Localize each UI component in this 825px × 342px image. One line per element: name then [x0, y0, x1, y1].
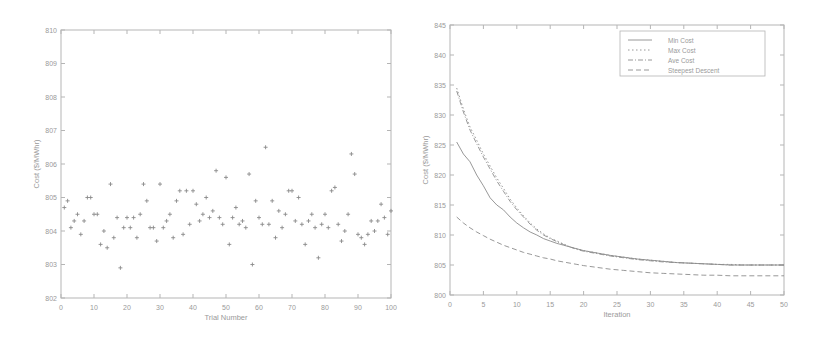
legend-entry-label: Steepest Descent — [668, 67, 720, 75]
data-point-marker — [363, 242, 367, 246]
data-point-marker — [326, 226, 330, 230]
data-point-marker — [171, 236, 175, 240]
data-point-marker — [297, 196, 301, 200]
data-point-marker — [283, 212, 287, 216]
data-point-marker — [214, 169, 218, 173]
data-point-marker — [99, 242, 103, 246]
data-point-marker — [231, 216, 235, 220]
y-tick-label: 806 — [45, 161, 57, 168]
y-tick-label: 809 — [45, 60, 57, 67]
data-point-marker — [95, 212, 99, 216]
data-point-marker — [178, 189, 182, 193]
data-point-marker — [247, 172, 251, 176]
data-point-marker — [320, 222, 324, 226]
data-point-marker — [307, 219, 311, 223]
data-point-marker — [346, 212, 350, 216]
data-point-marker — [382, 216, 386, 220]
x-tick-label: 50 — [222, 304, 230, 311]
legend-entry-label: Min Cost — [668, 37, 694, 44]
y-tick-label: 802 — [45, 295, 57, 302]
x-tick-label: 30 — [647, 301, 655, 308]
y-tick-label: 807 — [45, 127, 57, 134]
legend-entry-label: Ave Cost — [668, 57, 694, 64]
x-tick-label: 45 — [747, 301, 755, 308]
series-line-ave-cost — [457, 91, 784, 265]
x-tick-label: 90 — [354, 304, 362, 311]
data-point-marker — [349, 152, 353, 156]
x-tick-label: 25 — [613, 301, 621, 308]
y-tick-label: 840 — [434, 52, 446, 59]
y-tick-label: 830 — [434, 112, 446, 119]
data-point-marker — [184, 189, 188, 193]
legend: Min CostMax CostAve CostSteepest Descent — [620, 31, 765, 76]
data-point-marker — [333, 185, 337, 189]
data-point-marker — [366, 232, 370, 236]
series-line-max-cost — [457, 88, 784, 265]
x-tick-label: 10 — [513, 301, 521, 308]
x-tick-label: 60 — [255, 304, 263, 311]
data-point-marker — [138, 212, 142, 216]
data-point-marker — [386, 232, 390, 236]
data-point-marker — [369, 219, 373, 223]
x-tick-label: 10 — [90, 304, 98, 311]
data-point-marker — [82, 219, 86, 223]
data-point-marker — [89, 196, 93, 200]
data-point-marker — [264, 145, 268, 149]
x-axis-label: Iteration — [603, 310, 630, 319]
x-tick-label: 40 — [189, 304, 197, 311]
y-tick-label: 845 — [434, 22, 446, 29]
data-point-marker — [198, 219, 202, 223]
y-tick-label: 810 — [434, 232, 446, 239]
y-tick-label: 835 — [434, 82, 446, 89]
data-point-marker — [175, 199, 179, 203]
x-tick-label: 35 — [680, 301, 688, 308]
data-point-marker — [211, 209, 215, 213]
data-point-marker — [300, 222, 304, 226]
x-tick-label: 40 — [713, 301, 721, 308]
data-point-marker — [254, 199, 258, 203]
data-point-marker — [359, 236, 363, 240]
data-point-marker — [112, 236, 116, 240]
data-point-marker — [343, 229, 347, 233]
y-tick-label: 820 — [434, 172, 446, 179]
data-point-marker — [330, 189, 334, 193]
data-point-marker — [250, 263, 254, 267]
data-point-marker — [181, 232, 185, 236]
data-point-marker — [145, 199, 149, 203]
data-point-marker — [310, 212, 314, 216]
x-tick-label: 30 — [156, 304, 164, 311]
data-point-marker — [267, 222, 271, 226]
data-point-marker — [293, 219, 297, 223]
data-point-marker — [165, 219, 169, 223]
data-point-marker — [224, 175, 228, 179]
plot-frame — [61, 30, 391, 298]
data-point-marker — [237, 222, 241, 226]
y-tick-label: 800 — [434, 292, 446, 299]
data-point-marker — [105, 246, 109, 250]
data-point-marker — [277, 209, 281, 213]
data-point-marker — [379, 202, 383, 206]
y-tick-label: 805 — [434, 262, 446, 269]
y-tick-label: 825 — [434, 142, 446, 149]
y-tick-label: 810 — [45, 27, 57, 34]
data-point-marker — [340, 239, 344, 243]
data-point-marker — [66, 199, 70, 203]
data-point-marker — [161, 226, 165, 230]
x-tick-label: 0 — [59, 304, 63, 311]
data-point-marker — [353, 172, 357, 176]
data-point-marker — [128, 226, 132, 230]
data-point-marker — [72, 219, 76, 223]
data-point-marker — [241, 219, 245, 223]
data-point-marker — [270, 199, 274, 203]
y-axis-label: Cost ($/MWhr) — [421, 135, 430, 184]
data-point-marker — [274, 236, 278, 240]
data-point-marker — [389, 209, 393, 213]
data-point-marker — [151, 226, 155, 230]
data-point-marker — [118, 266, 122, 270]
data-point-marker — [158, 182, 162, 186]
line-chart-iterations: 0510152025303540455080080581081582082583… — [410, 0, 825, 342]
x-tick-label: 70 — [288, 304, 296, 311]
x-tick-label: 0 — [448, 301, 452, 308]
data-point-marker — [280, 226, 284, 230]
data-point-marker — [188, 222, 192, 226]
